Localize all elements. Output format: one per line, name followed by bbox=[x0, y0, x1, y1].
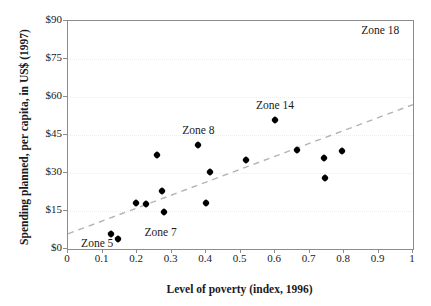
y-tick-label: $60 bbox=[24, 90, 62, 100]
x-tick-label: 0.9 bbox=[363, 252, 393, 264]
x-tick-label: 0.3 bbox=[156, 252, 186, 264]
y-tick-label: $0 bbox=[24, 242, 62, 252]
data-point bbox=[160, 208, 168, 216]
x-tick-mark bbox=[378, 249, 379, 253]
x-tick-label: 0.5 bbox=[225, 252, 255, 264]
y-tick-label: $75 bbox=[24, 52, 62, 62]
x-tick-label: 0.7 bbox=[294, 252, 324, 264]
x-tick-mark bbox=[412, 249, 413, 253]
data-point bbox=[153, 151, 161, 159]
gridline bbox=[68, 211, 413, 213]
data-point bbox=[293, 146, 301, 154]
x-tick-label: 1 bbox=[397, 252, 427, 264]
chart-corner-note: Zone 18 bbox=[361, 24, 399, 36]
gridline bbox=[68, 135, 413, 137]
x-tick-mark bbox=[240, 249, 241, 253]
x-tick-mark bbox=[136, 249, 137, 253]
gridline bbox=[68, 97, 413, 99]
data-point bbox=[194, 141, 202, 149]
x-tick-label: 0 bbox=[52, 252, 82, 264]
gridline bbox=[68, 59, 413, 61]
data-point bbox=[337, 147, 345, 155]
x-tick-label: 0.4 bbox=[190, 252, 220, 264]
data-point-label: Zone 8 bbox=[182, 124, 214, 136]
data-point-label: Zone 5 bbox=[81, 237, 113, 249]
x-tick-mark bbox=[67, 249, 68, 253]
y-tick-label: $45 bbox=[24, 128, 62, 138]
x-tick-mark bbox=[343, 249, 344, 253]
y-tick-label: $15 bbox=[24, 204, 62, 214]
gridline bbox=[68, 173, 413, 175]
x-tick-mark bbox=[171, 249, 172, 253]
plot-area: Zone 18Zone 14Zone 8Zone 7Zone 5 bbox=[67, 20, 414, 250]
x-tick-label: 0.2 bbox=[121, 252, 151, 264]
data-point bbox=[321, 174, 329, 182]
x-axis-title: Level of poverty (index, 1996) bbox=[67, 283, 412, 295]
data-point bbox=[158, 186, 166, 194]
data-point bbox=[142, 200, 150, 208]
data-point-label: Zone 7 bbox=[145, 226, 177, 238]
data-point-label: Zone 14 bbox=[256, 99, 294, 111]
x-tick-label: 0.8 bbox=[328, 252, 358, 264]
x-tick-label: 0.6 bbox=[259, 252, 289, 264]
data-point bbox=[202, 199, 210, 207]
data-point bbox=[320, 154, 328, 162]
y-tick-label: $30 bbox=[24, 166, 62, 176]
data-point bbox=[132, 199, 140, 207]
x-tick-mark bbox=[309, 249, 310, 253]
data-point bbox=[242, 156, 250, 164]
y-tick-label: $90 bbox=[24, 14, 62, 24]
trendline bbox=[68, 105, 413, 234]
data-point bbox=[271, 116, 279, 124]
x-tick-mark bbox=[205, 249, 206, 253]
x-tick-mark bbox=[274, 249, 275, 253]
x-tick-label: 0.1 bbox=[87, 252, 117, 264]
scatter-chart-figure: Spending planned, per capita, in US$ (19… bbox=[0, 0, 431, 306]
data-point bbox=[114, 235, 122, 243]
x-tick-mark bbox=[102, 249, 103, 253]
